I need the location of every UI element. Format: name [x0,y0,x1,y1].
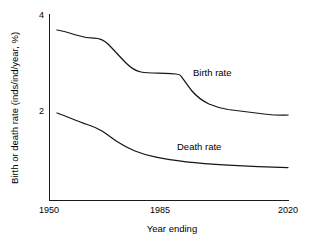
death-rate-series-label: Death rate [177,141,221,152]
chart-container: 4 2 1950 1985 2020 Year ending Birth or … [0,0,309,245]
birth-death-rate-line-chart: 4 2 1950 1985 2020 Year ending Birth or … [0,0,309,245]
x-tick-label-1950: 1950 [39,205,59,215]
x-tick-label-2020: 2020 [278,205,298,215]
y-tick-label-4: 4 [39,10,44,20]
y-axis-title: Birth or death rate (inds/ind/year, %) [9,32,20,184]
x-tick-label-1985: 1985 [150,205,170,215]
x-axis-title: Year ending [147,223,197,234]
birth-rate-series-label: Birth rate [193,67,232,78]
y-tick-label-2: 2 [39,106,44,116]
